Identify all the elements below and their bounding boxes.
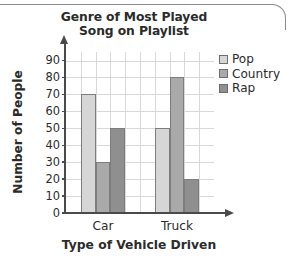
bar-car-rap (110, 128, 125, 213)
bar-truck-country (170, 77, 185, 213)
y-axis-tick-labels: 0102030405060708090 (34, 0, 60, 261)
gridline-vertical (125, 52, 126, 213)
y-axis-tick-label: 30 (36, 157, 60, 168)
y-axis-tick-label: 40 (36, 140, 60, 151)
y-axis-tick-label: 0 (36, 208, 60, 219)
legend-swatch-icon (219, 55, 228, 64)
chart-page: Genre of Most Played Song on Playlist Nu… (0, 0, 295, 261)
arrow-up-icon (60, 35, 68, 44)
legend-label: Country (232, 68, 280, 80)
y-axis-tick-label: 10 (36, 191, 60, 202)
plot-area (66, 52, 214, 213)
chart-title: Genre of Most Played Song on Playlist (46, 10, 222, 39)
x-axis-category-car: Car (66, 219, 140, 233)
legend-label: Pop (232, 53, 254, 65)
bar-truck-pop (155, 128, 170, 213)
legend-item-country: Country (219, 67, 295, 82)
legend-item-rap: Rap (219, 81, 295, 96)
y-axis-line (64, 42, 66, 214)
x-axis-line (64, 212, 226, 214)
chart-title-line-1: Genre of Most Played (46, 10, 222, 24)
bar-car-country (96, 162, 111, 213)
legend-label: Rap (232, 82, 255, 94)
legend-swatch-icon (219, 84, 228, 93)
x-axis-label: Type of Vehicle Driven (44, 238, 234, 252)
arrow-right-icon (225, 209, 234, 217)
y-axis-tick-label: 90 (36, 55, 60, 66)
y-axis-tick-label: 60 (36, 106, 60, 117)
bar-car-pop (81, 94, 96, 213)
chart-legend: PopCountryRap (219, 52, 295, 96)
chart-title-line-2: Song on Playlist (46, 24, 222, 38)
y-axis-tick-label: 70 (36, 89, 60, 100)
x-axis-category-truck: Truck (140, 219, 214, 233)
legend-item-pop: Pop (219, 52, 295, 67)
legend-swatch-icon (219, 69, 228, 78)
y-axis-tick-label: 20 (36, 174, 60, 185)
y-axis-label: Number of People (11, 62, 25, 202)
bar-truck-rap (184, 179, 199, 213)
y-axis-tick-label: 50 (36, 123, 60, 134)
y-axis-tick-label: 80 (36, 72, 60, 83)
gridline-vertical (140, 52, 141, 213)
gridline-vertical (199, 52, 200, 213)
